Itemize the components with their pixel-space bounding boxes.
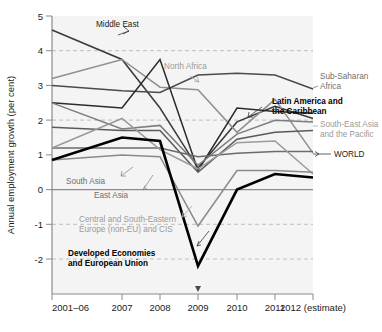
y-tick-label-3: 3 bbox=[38, 80, 43, 91]
annotation-latin-america-line2: the Caribbean bbox=[272, 107, 327, 116]
annotation-developed-line1: Developed Economies bbox=[68, 249, 156, 258]
annotation-east-asia: East Asia bbox=[94, 191, 129, 200]
leader-sub-saharan bbox=[313, 86, 318, 88]
y-tick-label-2: 2 bbox=[38, 115, 43, 126]
chart-svg: 5 4 3 2 1 0 -1 -2 Annual employment grow… bbox=[0, 0, 382, 332]
x-tick-label-2008: 2008 bbox=[149, 302, 170, 313]
annotation-latin-america-line1: Latin America and bbox=[272, 97, 343, 106]
y-tick-label-4: 4 bbox=[38, 45, 43, 56]
annotation-sub-saharan-line1: Sub-Saharan bbox=[320, 72, 369, 81]
x-axis: 2001–06 2007 2008 2009 2010 2011 2012 (e… bbox=[52, 294, 346, 313]
annotation-sea-pacific-line1: South-East Asia bbox=[320, 120, 379, 129]
x-tick-label-2007: 2007 bbox=[111, 302, 132, 313]
annotation-north-africa: North Africa bbox=[164, 62, 207, 71]
y-tick-label-5: 5 bbox=[38, 11, 43, 22]
y-tick-label-1: 1 bbox=[38, 149, 43, 160]
leader-world bbox=[313, 152, 331, 157]
annotation-middle-east: Middle East bbox=[96, 20, 140, 29]
y-axis-title: Annual employment growth (per cent) bbox=[5, 76, 16, 234]
y-tick-label-0: 0 bbox=[38, 184, 43, 195]
annotation-sub-saharan-line2: Africa bbox=[320, 82, 341, 91]
x-tick-label-2009: 2009 bbox=[187, 302, 208, 313]
x-tick-label-2001-06: 2001–06 bbox=[52, 302, 89, 313]
x-tick-label-2012: 2012 (estimate) bbox=[280, 302, 346, 313]
y-tick-label-minus-2: -2 bbox=[35, 254, 43, 265]
annotation-developed-line2: and European Union bbox=[68, 259, 148, 268]
annotation-south-asia: South Asia bbox=[66, 177, 106, 186]
x-tick-label-2010: 2010 bbox=[226, 302, 247, 313]
annotation-world: WORLD bbox=[334, 150, 365, 159]
annotation-sea-pacific-line2: and the Pacific bbox=[320, 130, 374, 139]
y-tick-label-minus-1: -1 bbox=[35, 219, 43, 230]
y-axis: 5 4 3 2 1 0 -1 -2 bbox=[35, 11, 52, 295]
annotation-central-europe-line2: Europe (non-EU) and CIS bbox=[79, 225, 173, 234]
employment-growth-chart: 5 4 3 2 1 0 -1 -2 Annual employment grow… bbox=[0, 0, 382, 332]
annotation-central-europe-line1: Central and South-Eastern bbox=[79, 215, 176, 224]
